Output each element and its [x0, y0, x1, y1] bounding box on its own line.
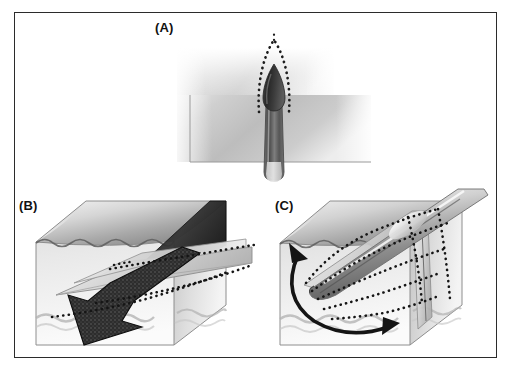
figure-root: (A) (B) (C) Vertical cross-section throu…	[0, 0, 511, 373]
panel-label-b: (B)	[19, 198, 38, 213]
panel-c-description: Three-dimensional block showing an incli…	[0, 0, 1, 1]
panel-a-conduit-plug	[266, 162, 282, 182]
panel-b-drawing	[14, 187, 262, 358]
panel-a-drawing	[14, 12, 497, 187]
panel-label-a: (A)	[155, 20, 174, 35]
panel-c	[262, 187, 497, 358]
panel-label-c: (C)	[275, 198, 294, 213]
panel-b	[14, 187, 262, 358]
panel-a	[14, 12, 497, 187]
panel-c-drawing	[262, 187, 497, 358]
panel-a-upper-slab	[177, 48, 334, 100]
